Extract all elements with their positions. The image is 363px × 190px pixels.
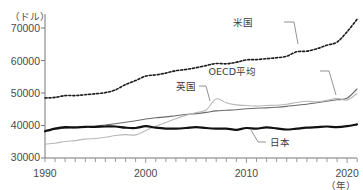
y-tick-label-60000: 60000: [11, 55, 40, 67]
leader-line-uk: [199, 86, 210, 101]
x-tick-label-2000: 2000: [134, 167, 158, 179]
x-axis-minor-ticks: [45, 158, 357, 163]
x-axis-unit-label: （年）: [326, 180, 356, 190]
series-label-japan: 日本: [270, 137, 290, 148]
leader-line-oecd: [320, 71, 336, 95]
wage-comparison-line-chart: （ドル） 70000 60000 50000 40000 30000: [0, 0, 363, 190]
y-tick-label-30000: 30000: [11, 151, 40, 163]
x-tick-label-2020: 2020: [335, 167, 359, 179]
x-tick-label-1990: 1990: [33, 167, 57, 179]
y-axis-ticks: [41, 28, 45, 158]
y-tick-label-40000: 40000: [11, 119, 40, 131]
series-label-uk: 英国: [176, 81, 196, 92]
series-label-oecd-average: OECD平均: [209, 66, 256, 77]
series-line-uk: [45, 94, 357, 145]
x-tick-label-2010: 2010: [235, 167, 259, 179]
series-group: [45, 19, 357, 144]
chart-container: （ドル） 70000 60000 50000 40000 30000: [0, 0, 363, 190]
y-axis-unit-label: （ドル）: [10, 11, 50, 22]
leader-line-usa: [284, 22, 298, 44]
annotation-leaders: [199, 22, 336, 142]
series-label-usa: 米国: [233, 17, 253, 28]
y-tick-label-50000: 50000: [11, 87, 40, 99]
series-line-oecd-average: [45, 89, 357, 130]
leader-line-japan: [251, 130, 266, 142]
series-line-japan: [45, 124, 357, 131]
y-tick-label-70000: 70000: [11, 22, 40, 34]
